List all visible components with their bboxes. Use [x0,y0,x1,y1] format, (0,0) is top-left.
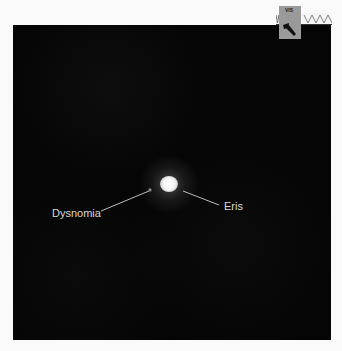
astronomy-image: Dysnomia Eris [13,25,331,340]
logo-badge-text: VIS [285,7,293,13]
dysnomia-label: Dysnomia [52,207,101,219]
label-pointers [13,25,331,340]
eris-label: Eris [224,200,243,212]
eris-pointer-line [183,191,219,205]
dysnomia-pointer-line [101,191,149,211]
